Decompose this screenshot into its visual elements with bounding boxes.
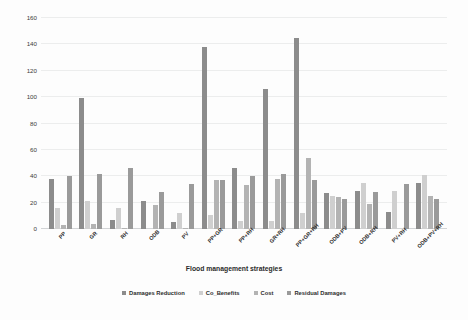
bar <box>324 193 329 229</box>
bar <box>171 222 176 229</box>
legend-label: Cost <box>261 290 274 296</box>
y-axis-tick: 160 <box>27 14 37 21</box>
x-axis-tick: PV+RH <box>390 226 407 243</box>
bar <box>110 220 115 229</box>
x-axis-tick: ODB <box>148 229 161 242</box>
x-tick-cell: PP+GR+RH <box>290 231 321 265</box>
bar <box>97 174 102 229</box>
bar-group <box>382 18 413 229</box>
bar-groups <box>41 18 447 229</box>
x-tick-cell: ODB+RH <box>351 231 382 265</box>
bar <box>128 168 133 229</box>
chart-figure: Costs, Damages and Benefits (1x106) 0204… <box>0 0 468 320</box>
bar <box>416 183 421 229</box>
bar <box>141 201 146 229</box>
bar <box>404 184 409 229</box>
x-axis-tick: PP+RH <box>237 226 254 243</box>
x-tick-cell: GR+RH <box>259 231 290 265</box>
x-tick-cell: ODB+PV <box>320 231 351 265</box>
bar <box>208 215 213 230</box>
bar-group <box>320 18 351 229</box>
bar <box>122 228 127 229</box>
bar <box>336 197 341 229</box>
x-tick-cell: ODB+PV+RH <box>412 231 443 265</box>
bar <box>116 208 121 229</box>
legend-item[interactable]: Co_Benefits <box>199 290 240 296</box>
bar <box>392 191 397 229</box>
bar-group <box>167 18 198 229</box>
legend-label: Co_Benefits <box>206 290 240 296</box>
bar <box>244 185 249 229</box>
bar <box>67 176 72 229</box>
legend-item[interactable]: Cost <box>254 290 274 296</box>
bar <box>177 213 182 229</box>
bar <box>300 213 305 229</box>
bar <box>275 179 280 229</box>
bar-group <box>259 18 290 229</box>
bar <box>91 224 96 229</box>
bar-group <box>198 18 229 229</box>
bar <box>294 38 299 229</box>
y-axis-tick: 20 <box>30 198 37 205</box>
bar <box>159 192 164 229</box>
bar <box>312 180 317 229</box>
legend-swatch-icon <box>199 291 203 295</box>
bar <box>220 180 225 229</box>
bar <box>49 179 54 229</box>
bar-group <box>45 18 76 229</box>
bar <box>263 89 268 229</box>
x-tick-cell: PV <box>167 231 198 265</box>
y-axis-tick: 0 <box>34 225 37 232</box>
x-tick-cell: PP+GR <box>198 231 229 265</box>
bar <box>428 196 433 229</box>
bar <box>61 225 66 229</box>
bar <box>422 175 427 229</box>
legend-swatch-icon <box>122 291 126 295</box>
bar <box>386 212 391 229</box>
x-tick-cell: ODB <box>137 231 168 265</box>
legend-swatch-icon <box>254 291 258 295</box>
chart-legend: Damages ReductionCo_BenefitsCostResidual… <box>0 290 468 296</box>
bar-group <box>76 18 107 229</box>
bar-group <box>412 18 443 229</box>
bar-group <box>229 18 260 229</box>
bar <box>79 98 84 229</box>
y-axis-tick: 80 <box>30 119 37 126</box>
y-axis-tick: 60 <box>30 145 37 152</box>
legend-item[interactable]: Damages Reduction <box>122 290 185 296</box>
x-axis-tick: PV <box>180 230 189 239</box>
legend-swatch-icon <box>287 291 291 295</box>
bar <box>202 47 207 229</box>
legend-item[interactable]: Residual Damages <box>287 290 346 296</box>
bar <box>189 184 194 229</box>
bar <box>355 191 360 229</box>
legend-label: Residual Damages <box>294 290 346 296</box>
x-axis-tick: PP <box>58 230 67 239</box>
x-axis-tick: GR <box>88 230 98 240</box>
bar-group <box>106 18 137 229</box>
bar <box>269 221 274 229</box>
x-tick-cell: RH <box>106 231 137 265</box>
bar <box>85 201 90 229</box>
bar <box>232 168 237 229</box>
bar <box>330 196 335 229</box>
x-tick-cell: PV+RH <box>382 231 413 265</box>
bar <box>250 176 255 229</box>
y-axis-tick: 40 <box>30 172 37 179</box>
bar <box>214 180 219 229</box>
y-axis-tick: 120 <box>27 66 37 73</box>
x-axis-title: Flood management strategies <box>0 265 468 272</box>
y-axis-tick: 140 <box>27 40 37 47</box>
bar-group <box>351 18 382 229</box>
x-tick-cell: PP+RH <box>229 231 260 265</box>
bar <box>238 221 243 229</box>
legend-label: Damages Reduction <box>129 290 185 296</box>
bar <box>153 205 158 229</box>
x-axis-tick-labels: PPGRRHODBPVPP+GRPP+RHGR+RHPP+GR+RHODB+PV… <box>41 231 447 265</box>
plot-area: 020406080100120140160 <box>41 18 447 229</box>
y-axis-tick: 100 <box>27 93 37 100</box>
bar <box>281 174 286 229</box>
bar-group <box>137 18 168 229</box>
bar <box>361 183 366 229</box>
bar <box>55 208 60 229</box>
